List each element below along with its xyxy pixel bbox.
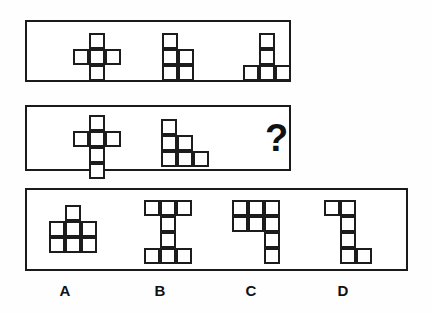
t-pentomino (243, 33, 291, 81)
answer-option-c[interactable] (232, 200, 280, 264)
grid-cell (248, 216, 264, 232)
grid-cell (49, 221, 65, 237)
grid-cell (89, 115, 105, 131)
staircase-hexomino (161, 119, 209, 167)
grid-cell (340, 216, 356, 232)
grid-cell (160, 248, 176, 264)
grid-cell (162, 33, 178, 49)
grid-cell (160, 232, 176, 248)
grid-cell (65, 205, 81, 221)
grid-cell (176, 200, 192, 216)
answer-option-a[interactable] (49, 205, 97, 253)
grid-cell (259, 65, 275, 81)
answer-options-panel (25, 188, 408, 271)
grid-cell (177, 135, 193, 151)
answer-label-a: A (55, 282, 75, 299)
grid-cell (89, 65, 105, 81)
grid-cell (89, 147, 105, 163)
latin-cross-hexomino (73, 115, 121, 179)
grid-cell (89, 49, 105, 65)
grid-cell (65, 221, 81, 237)
grid-cell (340, 248, 356, 264)
grid-cell (105, 131, 121, 147)
grid-cell (160, 200, 176, 216)
grid-cell (105, 49, 121, 65)
grid-cell (264, 248, 280, 264)
grid-cell (232, 216, 248, 232)
answer-label-c: C (241, 282, 261, 299)
grid-cell (144, 200, 160, 216)
grid-cell (89, 163, 105, 179)
grid-cell (275, 65, 291, 81)
grid-cell (259, 49, 275, 65)
grid-cell (81, 237, 97, 253)
answer-label-d: D (333, 282, 353, 299)
plus-pentomino (73, 33, 121, 81)
sequence-row-2-panel: ? (25, 105, 291, 171)
grid-cell (340, 200, 356, 216)
grid-cell (161, 151, 177, 167)
p-pentomino (162, 33, 194, 81)
grid-cell (89, 131, 105, 147)
grid-cell (161, 119, 177, 135)
grid-cell (161, 135, 177, 151)
grid-cell (162, 65, 178, 81)
grid-cell (160, 216, 176, 232)
grid-cell (65, 237, 81, 253)
grid-cell (193, 151, 209, 167)
grid-cell (340, 232, 356, 248)
grid-cell (232, 200, 248, 216)
grid-cell (324, 200, 340, 216)
grid-cell (49, 237, 65, 253)
answer-option-d[interactable] (324, 200, 372, 264)
question-mark: ? (265, 119, 288, 157)
grid-cell (176, 248, 192, 264)
grid-cell (264, 216, 280, 232)
grid-cell (248, 200, 264, 216)
grid-cell (356, 248, 372, 264)
grid-cell (73, 131, 89, 147)
grid-cell (243, 65, 259, 81)
grid-cell (259, 33, 275, 49)
grid-cell (178, 49, 194, 65)
answer-label-b: B (150, 282, 170, 299)
grid-cell (162, 49, 178, 65)
grid-cell (177, 151, 193, 167)
sequence-row-1-panel (25, 20, 291, 82)
answer-option-b[interactable] (144, 200, 192, 264)
grid-cell (81, 221, 97, 237)
grid-cell (178, 65, 194, 81)
grid-cell (89, 33, 105, 49)
grid-cell (264, 232, 280, 248)
grid-cell (73, 49, 89, 65)
grid-cell (264, 200, 280, 216)
grid-cell (144, 248, 160, 264)
